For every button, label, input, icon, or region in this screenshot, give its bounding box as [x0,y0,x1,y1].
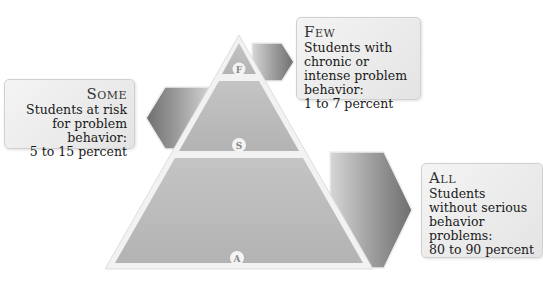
callout-some-description: Students at risk for problem behavior: [12,103,127,145]
tier-all [115,158,363,263]
svg-text:A: A [233,254,242,264]
callout-some-percent: 5 to 15 percent [12,145,127,159]
callout-all-description: Students without serious behavior proble… [429,187,535,243]
callout-some: Some Students at risk for problem behavi… [4,79,135,149]
badge-few: F [233,63,246,76]
callout-few: Few Students with chronic or intense pro… [296,17,421,100]
svg-text:F: F [236,65,243,75]
badge-all: A [230,251,244,265]
callout-all: All Students without serious behavior pr… [421,163,543,258]
callout-few-description: Students with chronic or intense problem… [304,41,413,97]
callout-all-title: All [429,170,535,187]
callout-all-percent: 80 to 90 percent [429,243,535,257]
callout-few-title: Few [304,24,413,41]
badge-some: S [232,138,246,152]
callout-some-title: Some [12,86,127,103]
callout-few-percent: 1 to 7 percent [304,97,413,111]
svg-text:S: S [236,141,243,151]
